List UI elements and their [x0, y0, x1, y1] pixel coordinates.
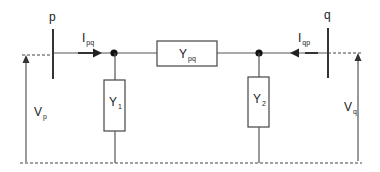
- pi-model-circuit-diagram: p q Vp Vq Ipq Iqp Ypq Y1 Y2: [0, 0, 380, 172]
- voltage-p-label: Vp: [34, 105, 47, 121]
- voltage-p-arrow-head: [23, 55, 30, 63]
- current-qp-arrow-head: [290, 49, 299, 58]
- bus-p-label: p: [49, 10, 56, 24]
- voltage-q-label: Vq: [344, 100, 357, 116]
- junction-node-left: [110, 49, 117, 56]
- current-pq-label: Ipq: [82, 31, 94, 47]
- voltage-q-arrow-head: [355, 53, 362, 61]
- current-qp-label: Iqp: [298, 31, 310, 47]
- current-pq-arrow-head: [93, 49, 102, 58]
- bus-q-label: q: [324, 8, 331, 22]
